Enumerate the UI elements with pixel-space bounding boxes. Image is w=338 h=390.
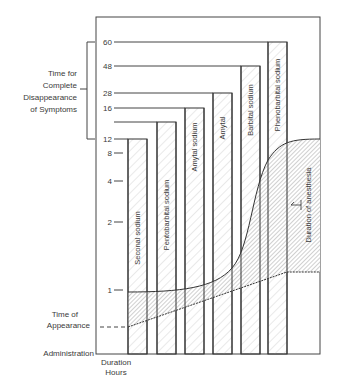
bracket-label: Time for Complete Disappearance of Sympt… bbox=[23, 69, 77, 114]
svg-text:Time for: Time for bbox=[48, 69, 77, 78]
svg-text:Complete: Complete bbox=[43, 81, 78, 90]
bar-label-phenobarbital: Phenobarbital sodium bbox=[273, 59, 282, 132]
tick-16: 16 bbox=[103, 104, 112, 113]
bar-label-amytal: Amytal bbox=[218, 116, 227, 139]
svg-text:Disappearance: Disappearance bbox=[23, 93, 77, 102]
x-axis-label: Duration Hours bbox=[101, 358, 131, 377]
svg-text:Duration: Duration bbox=[101, 358, 131, 367]
tick-2: 2 bbox=[108, 218, 113, 227]
bar-label-amytal-sodium: Amytal sodium bbox=[190, 122, 199, 171]
svg-text:of Symptoms: of Symptoms bbox=[30, 105, 77, 114]
bar-label-barbital: Barbital sodium bbox=[246, 84, 255, 136]
administration-label: Administration bbox=[43, 349, 94, 358]
tick-60: 60 bbox=[103, 38, 112, 47]
tick-8: 8 bbox=[108, 149, 113, 158]
bar-label-seconal: Seconal sodium bbox=[133, 211, 142, 264]
svg-text:Appearance: Appearance bbox=[47, 321, 91, 330]
y-tick-labels: 60 48 28 16 12 8 4 2 1 bbox=[103, 38, 112, 295]
svg-text:Time of: Time of bbox=[52, 310, 79, 319]
symptom-bracket bbox=[80, 42, 95, 139]
tick-48: 48 bbox=[103, 62, 112, 71]
bar-label-pentobarbital: Pentobarbital sodium bbox=[162, 180, 171, 250]
tick-12: 12 bbox=[103, 135, 112, 144]
tick-1: 1 bbox=[108, 286, 113, 295]
appearance-label: Time of Appearance bbox=[47, 310, 91, 330]
tick-4: 4 bbox=[108, 177, 113, 186]
svg-text:Hours: Hours bbox=[105, 368, 126, 377]
tick-28: 28 bbox=[103, 89, 112, 98]
anesthesia-label: Duration of anesthesia bbox=[304, 167, 313, 243]
barbiturate-duration-chart: 60 48 28 16 12 8 4 2 1 Seconal sodium Pe… bbox=[0, 0, 338, 390]
